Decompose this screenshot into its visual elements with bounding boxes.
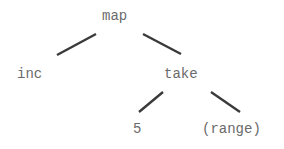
edge-map-take — [143, 34, 181, 54]
node-5: 5 — [133, 122, 141, 136]
node-take: take — [164, 67, 198, 81]
node-range: (range) — [202, 122, 261, 136]
edge-take-range — [211, 92, 240, 112]
expression-tree-diagram: map inc take 5 (range) — [0, 0, 284, 149]
node-map: map — [102, 9, 127, 23]
edge-take-5 — [139, 92, 163, 112]
edge-map-inc — [57, 34, 96, 55]
node-inc: inc — [17, 67, 42, 81]
